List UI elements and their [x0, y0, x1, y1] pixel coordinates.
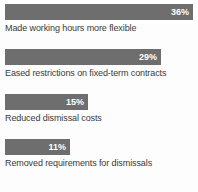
bar-value-label: 15%	[66, 98, 88, 107]
bar-track: 11%	[5, 139, 193, 155]
bar-category-label: Made working hours more flexible	[5, 22, 193, 34]
bar-value-label: 36%	[171, 8, 193, 17]
bar-track: 36%	[5, 4, 193, 20]
bar-fill: 29%	[5, 49, 161, 65]
bar-category-label: Reduced dismissal costs	[5, 112, 193, 124]
bar-row: 15% Reduced dismissal costs	[5, 94, 193, 124]
horizontal-bar-chart: 36% Made working hours more flexible 29%…	[0, 0, 198, 192]
bar-track: 29%	[5, 49, 193, 65]
bar-row: 11% Removed requirements for dismissals	[5, 139, 193, 169]
bar-fill: 36%	[5, 4, 193, 20]
bar-fill: 15%	[5, 94, 88, 110]
bar-row: 36% Made working hours more flexible	[5, 4, 193, 34]
bar-category-label: Eased restrictions on fixed-term contrac…	[5, 67, 193, 79]
bar-row: 29% Eased restrictions on fixed-term con…	[5, 49, 193, 79]
bar-category-label: Removed requirements for dismissals	[5, 157, 193, 169]
bar-fill: 11%	[5, 139, 70, 155]
bar-track: 15%	[5, 94, 193, 110]
bar-value-label: 29%	[139, 53, 161, 62]
bar-value-label: 11%	[48, 143, 70, 152]
